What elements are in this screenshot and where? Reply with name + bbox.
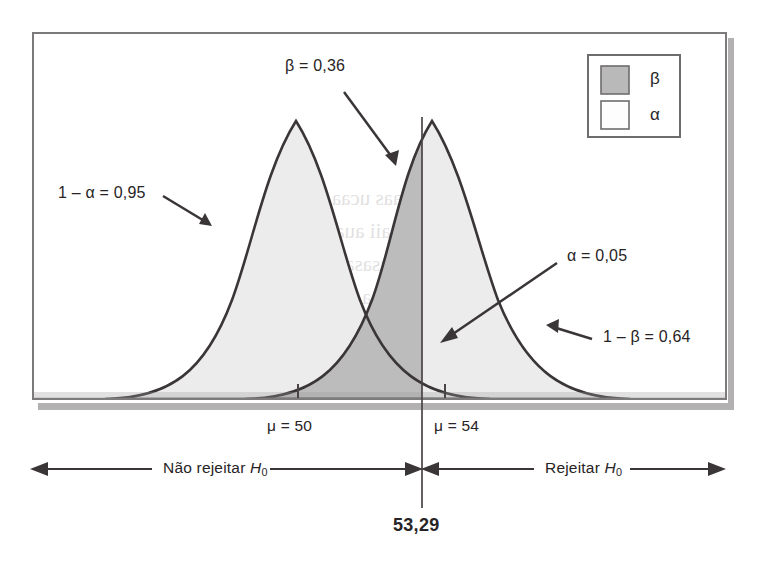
legend[interactable] xyxy=(588,55,680,137)
axis-base-shade xyxy=(33,392,726,399)
figure-canvas: daiaas ucaa 11 pasa aiiibaii aua ua asoi… xyxy=(0,0,758,563)
right-arrow-head-outer xyxy=(708,462,726,476)
left-arrow-head-outer xyxy=(30,462,48,476)
critical-value-label: 53,29 xyxy=(393,516,440,534)
right-arrow-head-inner xyxy=(421,462,439,476)
h-subscript-left: 0 xyxy=(261,466,267,478)
reject-text: Rejeitar xyxy=(545,459,605,476)
alpha-annotation-label: α = 0,05 xyxy=(567,248,627,264)
one-minus-alpha-annotation-label: 1 – α = 0,95 xyxy=(58,185,146,201)
legend-swatch-alpha xyxy=(601,101,629,129)
decision-label-do-not-reject: Não rejeitar H0 xyxy=(163,460,268,478)
legend-label-alpha: α xyxy=(650,106,660,123)
h-symbol-right: H xyxy=(605,459,616,476)
decision-label-reject: Rejeitar H0 xyxy=(545,460,622,478)
mu-null-label: μ = 50 xyxy=(267,418,312,434)
legend-label-beta: β xyxy=(650,70,660,87)
h-subscript-right: 0 xyxy=(616,466,622,478)
legend-swatch-beta xyxy=(601,66,629,94)
one-minus-beta-annotation-label: 1 – β = 0,64 xyxy=(603,329,691,345)
mu-alt-label: μ = 54 xyxy=(434,418,479,434)
distribution-plot: daiaas ucaa 11 pasa aiiibaii aua ua asoi… xyxy=(0,0,758,563)
do-not-reject-text: Não rejeitar xyxy=(163,459,250,476)
h-symbol-left: H xyxy=(250,459,261,476)
beta-annotation-label: β = 0,36 xyxy=(285,58,345,74)
left-arrow-head-inner xyxy=(405,462,423,476)
